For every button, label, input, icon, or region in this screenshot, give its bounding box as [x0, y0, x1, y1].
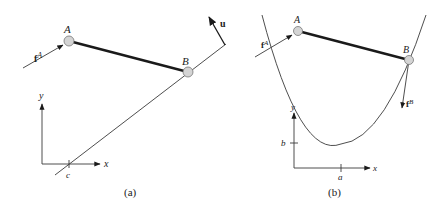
x-tick-label-c: c: [66, 170, 70, 180]
panel-b: fA fB A B y x b a (b): [255, 14, 426, 199]
panel-a: u fA A B y x c (a): [23, 17, 226, 199]
y-axis-label: y: [290, 102, 295, 112]
point-b-label: B: [182, 55, 189, 67]
y-tick-label-b: b: [281, 138, 286, 148]
point-a-label: A: [63, 23, 71, 35]
node-b: [405, 56, 414, 65]
figure: u fA A B y x c (a) fA: [0, 0, 447, 208]
x-axis-label: x: [372, 163, 377, 173]
node-b: [183, 67, 193, 77]
constraint-line: [55, 44, 226, 175]
x-tick-label-a: a: [338, 172, 343, 182]
caption-b: (b): [328, 186, 341, 199]
parabola-constraint: [262, 15, 426, 146]
bar-ab: [69, 41, 188, 72]
node-a: [294, 27, 303, 36]
y-axis-label: y: [38, 90, 44, 101]
force-b-label: fB: [406, 98, 414, 109]
force-a-label: fA: [34, 51, 42, 64]
diagram-svg: u fA A B y x c (a) fA: [0, 0, 447, 208]
force-a-label: fA: [261, 39, 269, 50]
x-axis-label: x: [103, 158, 109, 169]
bar-ab: [298, 31, 409, 60]
point-b-label: B: [403, 44, 409, 55]
point-a-label: A: [293, 14, 301, 25]
force-a-line: [23, 45, 63, 68]
normal-label: u: [220, 18, 226, 29]
caption-a: (a): [124, 186, 137, 199]
node-a: [64, 36, 74, 46]
